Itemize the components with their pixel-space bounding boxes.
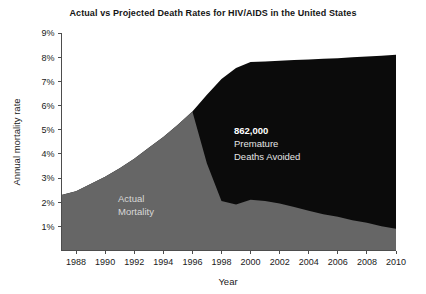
x-tick-label: 2008 xyxy=(357,257,377,267)
x-tick-label: 2010 xyxy=(386,257,406,267)
x-tick-label: 1990 xyxy=(95,257,115,267)
x-tick-label: 2002 xyxy=(270,257,290,267)
x-axis-title: Year xyxy=(218,276,237,287)
x-axis-ticks: 1988199019921994199619982000200220042006… xyxy=(66,251,406,267)
x-tick-label: 1996 xyxy=(182,257,202,267)
x-tick-label: 2006 xyxy=(328,257,348,267)
x-tick-label: 1992 xyxy=(124,257,144,267)
x-tick-label: 2000 xyxy=(241,257,261,267)
x-tick-label: 1998 xyxy=(211,257,231,267)
premature-deaths-value: 862,000 xyxy=(234,125,268,136)
y-tick-label: 3% xyxy=(41,173,54,183)
y-tick-label: 7% xyxy=(41,77,54,87)
premature-deaths-line-2: Premature xyxy=(234,138,278,149)
y-tick-label: 2% xyxy=(41,198,54,208)
y-tick-label: 1% xyxy=(41,222,54,232)
actual-mortality-line-2: Mortality xyxy=(118,206,154,217)
actual-mortality-line-1: Actual xyxy=(118,193,144,204)
x-tick-label: 2004 xyxy=(299,257,319,267)
chart-plot: 1%2%3%4%5%6%7%8%9% 198819901992199419961… xyxy=(0,0,426,294)
y-tick-label: 5% xyxy=(41,125,54,135)
y-tick-label: 9% xyxy=(41,28,54,38)
chart-container: Actual vs Projected Death Rates for HIV/… xyxy=(0,0,426,294)
premature-deaths-line-3: Deaths Avoided xyxy=(234,151,300,162)
y-axis-title: Annual mortality rate xyxy=(11,98,22,185)
y-tick-label: 8% xyxy=(41,53,54,63)
y-tick-label: 6% xyxy=(41,101,54,111)
y-axis-ticks: 1%2%3%4%5%6%7%8%9% xyxy=(41,28,61,231)
x-tick-label: 1988 xyxy=(66,257,86,267)
y-tick-label: 4% xyxy=(41,149,54,159)
x-tick-label: 1994 xyxy=(153,257,173,267)
